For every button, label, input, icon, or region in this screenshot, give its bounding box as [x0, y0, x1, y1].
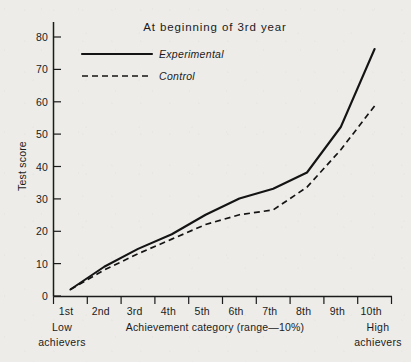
y-tick-label-80: 80 [36, 31, 48, 43]
y-axis: 80 70 60 50 40 30 20 10 0 Test score [16, 22, 61, 302]
chart-figure: At beginning of 3rd year Experimental Co… [0, 0, 411, 362]
x-axis-low-achievers-line1: Low [52, 321, 72, 333]
y-tick-label-10: 10 [36, 258, 48, 270]
legend-label-control: Control [159, 70, 195, 82]
x-tick-label-5th: 5th [195, 305, 210, 317]
y-tick-label-70: 70 [36, 63, 48, 75]
y-tick-label-0: 0 [42, 290, 48, 302]
x-tick-label-3rd: 3rd [127, 305, 143, 317]
x-axis-high-achievers-line2: achievers [354, 336, 402, 348]
y-tick-label-40: 40 [36, 161, 48, 173]
x-tick-label-8th: 8th [296, 305, 311, 317]
x-tick-label-4th: 4th [161, 305, 176, 317]
legend-label-experimental: Experimental [159, 48, 224, 60]
y-tick-label-30: 30 [36, 193, 48, 205]
y-tick-label-60: 60 [36, 96, 48, 108]
x-axis-low-achievers-line2: achievers [38, 336, 86, 348]
plot-area [70, 49, 374, 290]
x-axis-high-achievers-line1: High [367, 321, 390, 333]
y-tick-label-20: 20 [36, 225, 48, 237]
line-chart-canvas: At beginning of 3rd year Experimental Co… [0, 0, 411, 362]
chart-legend: Experimental Control [82, 48, 224, 82]
y-axis-title: Test score [16, 141, 28, 191]
x-tick-label-9th: 9th [330, 305, 345, 317]
x-tick-label-1st: 1st [59, 305, 74, 317]
x-tick-label-7th: 7th [262, 305, 277, 317]
x-tick-label-2nd: 2nd [92, 305, 110, 317]
chart-title: At beginning of 3rd year [143, 21, 287, 33]
y-tick-label-50: 50 [36, 128, 48, 140]
x-tick-label-6th: 6th [228, 305, 243, 317]
series-line-control [70, 106, 374, 290]
series-line-experimental [70, 49, 374, 290]
x-axis-title: Achievement category (range—10%) [126, 321, 305, 333]
x-tick-label-10th: 10th [361, 305, 382, 317]
x-axis: 1st 2nd 3rd 4th 5th 6th 7th 8th 9th 10th… [38, 297, 402, 349]
